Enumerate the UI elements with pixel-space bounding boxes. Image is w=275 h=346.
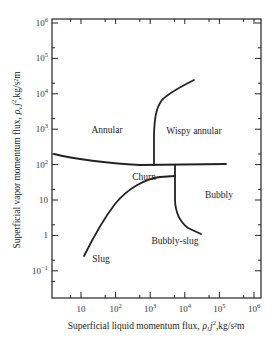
region-label-slug: Slug [92,254,110,264]
x-tick-1e4: 104 [179,302,192,314]
y-tick-1e6: 106 [36,16,49,28]
x-tick-1e5: 105 [213,302,225,314]
region-label-annular: Annular [91,125,123,135]
regime-boundaries [54,80,226,256]
x-axis-ticks [71,292,254,298]
y-axis-ticks [52,23,58,281]
region-label-wispy-annular: Wispy annular [166,126,222,136]
y-tick-labels: 106 105 104 103 102 10 1 10−1 [32,16,49,276]
x-tick-10: 10 [77,304,87,314]
region-label-churn: Churn [132,172,156,182]
x-tick-1e3: 103 [144,302,156,314]
x-axis-title: Superficial liquid momentum flux,ρlj2,kg… [68,319,245,332]
y-tick-1e-1: 10−1 [32,264,48,276]
y-tick-1e3: 103 [36,122,48,134]
annular-churn-boundary [54,154,226,165]
y-tick-1e4: 104 [36,87,49,99]
x-tick-labels: 10 102 103 104 105 106 [77,302,261,314]
flow-regime-map-chart: 10 102 103 104 105 106 106 105 104 103 1… [0,0,275,346]
x-tick-1e6: 106 [248,302,261,314]
x-axis-top-ticks [71,19,254,24]
y-axis-title: Superficial vapor momentum flux,ρvj2,kg/… [10,71,23,249]
y-tick-1: 1 [44,230,49,240]
region-labels: Annular Wispy annular Churn Bubbly Bubbl… [91,125,233,264]
y-tick-10: 10 [39,195,49,205]
x-tick-1e2: 102 [109,302,121,314]
region-label-bubbly: Bubbly [205,190,233,200]
region-label-bubbly-slug: Bubbly-slug [152,236,199,246]
bubbly-boundary [175,165,201,234]
wispy-annular-boundary [154,80,194,165]
y-tick-1e5: 105 [36,51,48,63]
y-axis-right-ticks [255,23,261,271]
y-tick-1e2: 102 [36,158,48,170]
